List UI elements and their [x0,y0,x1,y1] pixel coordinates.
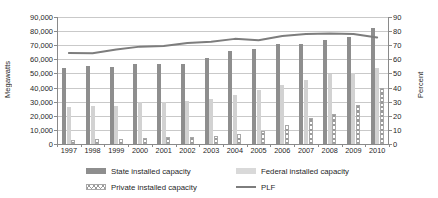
legend-item-private: Private installed capacity [86,183,236,192]
bar-state [276,44,280,144]
bar-group [104,17,128,144]
x-axis-tick-label: 2005 [250,146,266,155]
bar-swatch-light-icon [236,168,256,174]
bar-federal [304,80,308,144]
y-axis-right-tick-label: 10 [393,125,401,134]
bar-private [166,137,170,144]
bar-group [176,17,200,144]
y-axis-right-tick-label: 40 [393,83,401,92]
bar-group [199,17,223,144]
bar-state [62,68,66,144]
y-axis-right-tick-marks [389,17,393,144]
bar-federal [375,68,379,144]
y-axis-right-tick-mark [389,17,392,18]
legend-label-private: Private installed capacity [111,183,197,192]
bar-group [342,17,366,144]
bar-group [152,17,176,144]
bar-private [214,136,218,144]
bar-private [309,118,313,144]
bar-federal [67,107,71,144]
bar-federal [162,102,166,144]
x-axis-tick-label: 1997 [61,146,77,155]
chart-legend: State installed capacity Federal install… [86,163,361,195]
bar-federal [91,106,95,144]
bar-group [318,17,342,144]
y-axis-right-tick-label: 70 [393,41,401,50]
y-axis-left-tick-label: 40,000 [30,83,53,92]
bar-state [181,64,185,144]
bar-group [247,17,271,144]
y-axis-right-tick-mark [389,116,392,117]
bar-series-layer [57,17,389,144]
y-axis-left-tick-label: 80,000 [30,27,53,36]
legend-label-state: State installed capacity [111,167,191,176]
y-axis-right-tick-mark [389,73,392,74]
y-axis-right-tick-mark [389,45,392,46]
bar-private [237,134,241,144]
bar-group [81,17,105,144]
legend-item-federal: Federal installed capacity [236,167,361,176]
capacity-plf-chart: Megawatts Percent 010,00020,00030,00040,… [0,0,438,198]
bar-group [365,17,389,144]
bar-state [299,44,303,144]
x-axis-tick-label: 2004 [227,146,243,155]
bar-group [270,17,294,144]
y-axis-right-tick-label: 90 [393,13,401,22]
y-axis-left-tick-labels: 010,00020,00030,00040,00050,00060,00070,… [8,17,53,144]
bar-private [261,131,265,144]
y-axis-left-tick-label: 30,000 [30,97,53,106]
y-axis-right-tick-labels: 0102030405060708090 [393,17,417,144]
bar-private [190,137,194,144]
bar-swatch-hatched-icon [86,184,106,190]
y-axis-right-tick-mark [389,31,392,32]
x-axis-tick-label: 2003 [203,146,219,155]
y-axis-left-tick-label: 50,000 [30,69,53,78]
x-axis-tick-label: 2001 [156,146,172,155]
y-axis-right-tick-label: 0 [393,140,397,149]
bar-state [323,40,327,144]
bar-group [57,17,81,144]
bar-state [157,64,161,144]
bar-state [228,51,232,144]
y-axis-right-tick-mark [389,88,392,89]
y-axis-right-tick-label: 50 [393,69,401,78]
y-axis-left-tick-label: 90,000 [30,13,53,22]
y-axis-right-tick-mark [389,59,392,60]
bar-federal [114,106,118,144]
bar-federal [328,74,332,144]
bar-federal [209,99,213,144]
bar-federal [233,95,237,144]
bar-state [133,64,137,144]
x-axis-tick-labels: 1997199819992000200120022003200420052006… [57,146,389,158]
y-axis-right-tick-label: 20 [393,111,401,120]
x-axis-tick-label: 2009 [345,146,361,155]
y-axis-right-tick-label: 30 [393,97,401,106]
y-axis-right-tick-mark [389,130,392,131]
bar-private [380,88,384,144]
x-axis-tick-label: 1999 [108,146,124,155]
legend-item-plf: PLF [236,183,361,192]
y-axis-right-tick-label: 60 [393,55,401,64]
x-axis-tick-label: 2008 [322,146,338,155]
bar-federal [257,90,261,144]
bar-private [356,105,360,145]
y-axis-right-tick-mark [389,102,392,103]
bar-federal [138,102,142,144]
bar-state [252,49,256,144]
legend-label-plf: PLF [261,183,275,192]
bar-private [285,125,289,144]
x-axis-tick-label: 2010 [369,146,385,155]
bar-state [110,67,114,144]
bar-state [347,37,351,144]
bar-state [371,28,375,144]
y-axis-left-tick-label: 70,000 [30,41,53,50]
x-axis-tick-label: 2000 [132,146,148,155]
bar-federal [185,101,189,144]
y-axis-left-tick-label: 0 [49,140,53,149]
bar-federal [351,73,355,144]
bar-private [332,114,336,144]
line-swatch-icon [236,186,256,188]
bar-group [128,17,152,144]
bar-swatch-dark-icon [86,168,106,174]
y-axis-right-tick-label: 80 [393,27,401,36]
